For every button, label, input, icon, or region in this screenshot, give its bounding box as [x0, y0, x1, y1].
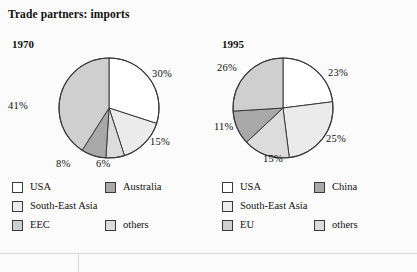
legend-item-others: others: [105, 220, 149, 231]
legend-swatch-others: [105, 220, 116, 231]
legend-label: China: [332, 182, 357, 193]
legend-swatch-eec: [12, 220, 23, 231]
legend-label: South-East Asia: [240, 201, 307, 212]
legend-row: EEC others: [0, 220, 209, 239]
page-divider-vertical: [78, 254, 79, 272]
legend-row: South-East Asia: [209, 201, 417, 220]
legend-row: USA Australia: [0, 182, 209, 201]
panel-year-label: 1970: [12, 38, 34, 50]
pie-label-usa: 30%: [152, 68, 172, 79]
legend-swatch-south-east-asia: [222, 201, 233, 212]
pie-label-sea: 15%: [150, 136, 170, 147]
legend-label: others: [332, 220, 358, 231]
legend-row: USA China: [209, 182, 417, 201]
pie-chart-1995: [231, 56, 335, 160]
legend-swatch-others: [314, 220, 325, 231]
legend-1995: USA China South-East Asia EU: [209, 182, 417, 239]
legend-item-australia: Australia: [105, 182, 162, 193]
pie-label-sea: 25%: [326, 133, 346, 144]
legend-1970: USA Australia South-East Asia EEC: [0, 182, 209, 239]
pie-label-eu: 26%: [217, 62, 237, 73]
legend-row: South-East Asia: [0, 201, 209, 220]
legend-item-usa: USA: [222, 182, 261, 193]
chart-panel-1995: 1995 23% 25% 15% 11% 26% USA China: [209, 0, 417, 250]
legend-swatch-usa: [12, 182, 23, 193]
legend-swatch-eu: [222, 220, 233, 231]
pie-label-usa: 23%: [328, 67, 348, 78]
legend-label: USA: [240, 182, 261, 193]
pie-chart-1970: [57, 56, 161, 160]
pie-label-others: 6%: [96, 158, 110, 169]
pie-svg-1970: [57, 56, 161, 160]
legend-label: others: [123, 220, 149, 231]
legend-row: EU others: [209, 220, 417, 239]
legend-swatch-china: [314, 182, 325, 193]
legend-label: EEC: [30, 220, 50, 231]
legend-item-eec: EEC: [12, 220, 50, 231]
pie-slice-south-east-asia: [283, 102, 333, 158]
legend-label: Australia: [123, 182, 162, 193]
pie-svg-1995: [231, 56, 335, 160]
legend-label: South-East Asia: [30, 201, 97, 212]
pie-label-china: 11%: [214, 121, 233, 132]
chart-panel-1970: 1970 30% 15% 6% 8% 41% USA Australia: [0, 0, 209, 250]
pie-label-eec: 41%: [8, 100, 28, 111]
legend-swatch-usa: [222, 182, 233, 193]
legend-item-usa: USA: [12, 182, 51, 193]
legend-item-south-east-asia: South-East Asia: [12, 201, 97, 212]
figure-root: Trade partners: imports 1970 30% 15% 6% …: [0, 0, 417, 272]
legend-swatch-south-east-asia: [12, 201, 23, 212]
legend-label: USA: [30, 182, 51, 193]
legend-item-eu: EU: [222, 220, 254, 231]
pie-label-australia: 8%: [56, 158, 70, 169]
legend-label: EU: [240, 220, 254, 231]
legend-item-china: China: [314, 182, 357, 193]
pie-slice-eu: [233, 58, 283, 111]
legend-item-south-east-asia: South-East Asia: [222, 201, 307, 212]
pie-label-others: 15%: [263, 153, 283, 164]
panel-year-label: 1995: [222, 38, 244, 50]
legend-swatch-australia: [105, 182, 116, 193]
legend-item-others: others: [314, 220, 358, 231]
pie-slice-usa: [283, 58, 333, 108]
page-divider-horizontal: [0, 253, 417, 254]
